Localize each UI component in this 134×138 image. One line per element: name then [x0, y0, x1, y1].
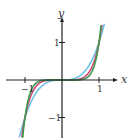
y-axis-label: y	[57, 7, 65, 20]
y-tick-label: 1	[54, 38, 60, 48]
x-axis-label: x	[121, 73, 128, 86]
y-tick-label: −1	[48, 113, 61, 123]
x-axis-arrow-icon	[113, 78, 118, 82]
x-tick-label: 1	[97, 84, 103, 94]
x-tick-label: −1	[21, 84, 34, 94]
power-functions-chart: x y −111−1	[0, 0, 134, 138]
